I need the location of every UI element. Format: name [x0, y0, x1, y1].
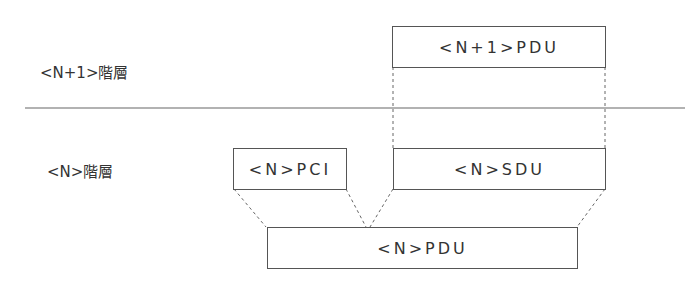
n-pdu-box: <N>PDU — [267, 227, 578, 269]
n-pci-box: <N>PCI — [233, 148, 347, 190]
n1-pdu-box: <N+1>PDU — [392, 26, 606, 68]
n-sdu-box: <N>SDU — [393, 148, 606, 190]
upper-layer-label: <N+1>階層 — [40, 61, 128, 82]
lower-layer-label: <N>階層 — [47, 160, 113, 181]
